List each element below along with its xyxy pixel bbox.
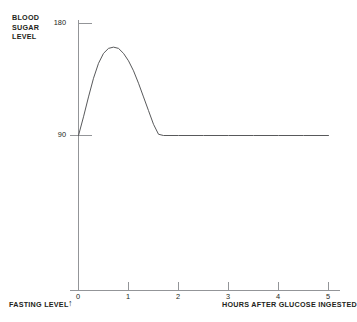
fasting-level-label: FASTING LEVEL bbox=[9, 300, 69, 310]
x-tick-label-2: 2 bbox=[171, 292, 185, 301]
blood-sugar-curve bbox=[79, 47, 329, 135]
x-axis-title: HOURS AFTER GLUCOSE INGESTED bbox=[222, 300, 357, 310]
x-tick-label-0: 0 bbox=[71, 292, 85, 301]
y-tick-label-180: 180 bbox=[44, 18, 66, 27]
y-axis-title: BLOOD SUGAR LEVEL bbox=[12, 13, 39, 42]
y-tick-label-90: 90 bbox=[44, 130, 66, 139]
fasting-level-up-arrow-icon: ↑ bbox=[68, 299, 73, 308]
x-tick-label-1: 1 bbox=[121, 292, 135, 301]
